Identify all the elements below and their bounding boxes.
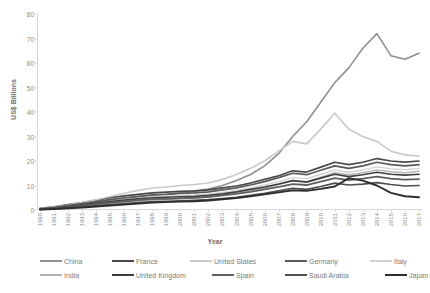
legend-swatch-icon [212, 274, 234, 276]
y-tick-label: 50 [27, 84, 34, 91]
legend-label: France [136, 258, 158, 265]
x-tick-label: 2008 [290, 213, 296, 226]
y-tick-label: 20 [27, 158, 34, 165]
legend-label: Japan [409, 272, 428, 279]
legend-item-japan[interactable]: Japan [385, 272, 428, 279]
x-tick-label: 1993 [79, 213, 85, 226]
y-tick-label: 40 [27, 109, 34, 116]
legend-item-saudi-arabia[interactable]: Saudi Arabia [285, 272, 349, 279]
x-tick-label: 2013 [360, 213, 366, 226]
legend-label: China [64, 258, 82, 265]
x-tick-label: 2001 [191, 213, 197, 226]
x-tick-label: 1997 [135, 213, 141, 226]
x-tick-label: 2011 [332, 213, 338, 226]
legend-swatch-icon [112, 274, 134, 276]
legend-label: Germany [309, 258, 338, 265]
x-tick-label: 2002 [205, 213, 211, 226]
x-tick-label: 2012 [346, 213, 352, 226]
y-tick-label: 60 [27, 60, 34, 67]
series-line-germany [40, 162, 419, 209]
x-tick-label: 2014 [374, 213, 380, 226]
series-line-china [40, 34, 419, 209]
x-tick-label: 2000 [177, 213, 183, 226]
x-tick-label: 2003 [219, 213, 225, 226]
legend-label: Spain [236, 272, 254, 279]
y-tick-label: 70 [27, 35, 34, 42]
x-tick-label: 2016 [402, 213, 408, 226]
x-tick-label: 2010 [318, 213, 324, 226]
legend-item-italy[interactable]: Italy [370, 258, 407, 265]
legend-swatch-icon [190, 260, 212, 262]
legend-item-spain[interactable]: Spain [212, 272, 254, 279]
legend-row: IndiaUnited KingdomSpainSaudi ArabiaJapa… [40, 268, 420, 282]
legend-swatch-icon [370, 260, 392, 262]
y-tick-label: 80 [27, 11, 34, 18]
legend-label: United Kingdom [136, 272, 186, 279]
x-tick-label: 1996 [121, 213, 127, 226]
x-tick-label: 1990 [37, 213, 43, 226]
chart-legend: ChinaFranceUnited StatesGermanyItalyIndi… [40, 254, 420, 288]
x-tick-label: 2015 [388, 213, 394, 226]
x-tick-label: 1994 [93, 213, 99, 226]
x-tick-label: 1998 [149, 213, 155, 226]
x-tick-label: 2007 [276, 213, 282, 226]
legend-swatch-icon [285, 274, 307, 276]
x-tick-label: 1991 [51, 213, 57, 226]
x-axis-title: Year [0, 238, 430, 245]
x-tick-label: 2009 [304, 213, 310, 226]
legend-item-germany[interactable]: Germany [285, 258, 338, 265]
x-tick-label: 2017 [416, 213, 422, 226]
x-tick-label: 2005 [248, 213, 254, 226]
legend-swatch-icon [112, 260, 134, 262]
plot-area: 01020304050607080 1990199119921993199419… [37, 14, 422, 210]
legend-swatch-icon [285, 260, 307, 262]
x-tick-label: 2004 [234, 213, 240, 226]
legend-item-united-kingdom[interactable]: United Kingdom [112, 272, 186, 279]
y-tick-label: 10 [27, 182, 34, 189]
legend-item-india[interactable]: India [40, 272, 79, 279]
y-axis-title: US$ Billions [10, 65, 17, 135]
x-tick-label: 2006 [262, 213, 268, 226]
x-tick-label: 1999 [163, 213, 169, 226]
legend-label: Italy [394, 258, 407, 265]
legend-swatch-icon [40, 274, 62, 276]
legend-label: India [64, 272, 79, 279]
legend-row: ChinaFranceUnited StatesGermanyItaly [40, 254, 420, 268]
legend-swatch-icon [40, 260, 62, 262]
y-tick-label: 30 [27, 133, 34, 140]
x-tick-label: 1995 [107, 213, 113, 226]
series-lines [37, 14, 422, 210]
legend-label: Saudi Arabia [309, 272, 349, 279]
legend-label: United States [214, 258, 256, 265]
legend-swatch-icon [385, 274, 407, 276]
x-tick-label: 1992 [65, 213, 71, 226]
legend-item-united-states[interactable]: United States [190, 258, 256, 265]
legend-item-france[interactable]: France [112, 258, 158, 265]
legend-item-china[interactable]: China [40, 258, 82, 265]
line-chart: US$ Billions 01020304050607080 199019911… [0, 0, 430, 293]
